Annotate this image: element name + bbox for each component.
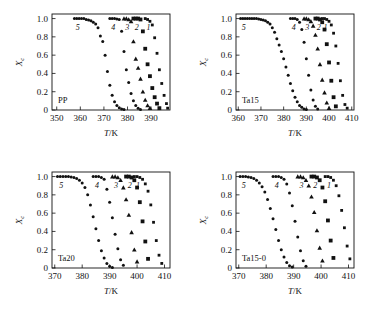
- data-point: [153, 95, 157, 99]
- data-point: [274, 228, 277, 231]
- data-point: [269, 207, 272, 210]
- x-tick-label: 370: [97, 113, 111, 123]
- curve-number-5: 5: [76, 23, 80, 32]
- data-point: [299, 249, 302, 252]
- data-point: [118, 18, 121, 21]
- data-point: [337, 62, 340, 65]
- data-point: [291, 204, 294, 207]
- data-point: [146, 62, 150, 66]
- data-point: [122, 264, 125, 267]
- data-point: [291, 266, 294, 269]
- panel-label: Ta15-0: [242, 253, 266, 263]
- panel-label: Ta20: [58, 253, 75, 263]
- data-point: [143, 47, 147, 51]
- data-point: [296, 18, 299, 21]
- data-point: [278, 44, 281, 47]
- data-point: [139, 18, 143, 22]
- data-point: [158, 254, 161, 257]
- data-point: [305, 108, 308, 111]
- y-tick-label: 0.4: [221, 226, 233, 236]
- curve-number-4: 4: [111, 23, 115, 32]
- curve-number-4: 4: [275, 181, 279, 190]
- y-tick-label: 1.0: [221, 14, 233, 24]
- data-point: [285, 182, 288, 185]
- data-point: [115, 104, 118, 107]
- data-point: [332, 32, 335, 35]
- y-tick-label: 0.8: [221, 190, 233, 200]
- data-point: [332, 95, 336, 99]
- data-point: [97, 26, 100, 29]
- data-point: [106, 70, 109, 73]
- data-point: [294, 220, 297, 223]
- data-point: [247, 176, 250, 179]
- data-point: [332, 179, 335, 182]
- data-point: [153, 36, 156, 39]
- data-point: [300, 28, 303, 31]
- y-tick-label: 0.8: [37, 32, 49, 42]
- x-tick-label: 360: [74, 113, 88, 123]
- data-point: [315, 46, 320, 50]
- data-point: [258, 181, 261, 184]
- y-tick-label: 1.0: [221, 172, 233, 182]
- data-point: [348, 257, 351, 260]
- data-point: [252, 177, 255, 180]
- data-point: [92, 215, 95, 218]
- x-tick-label: 400: [314, 271, 328, 281]
- curve-number-2: 2: [317, 23, 321, 32]
- data-point: [94, 227, 97, 230]
- data-point: [329, 176, 332, 179]
- y-axis-label: Xc: [198, 216, 209, 226]
- data-point: [325, 42, 329, 46]
- data-point: [346, 107, 349, 110]
- curve-number-1: 1: [136, 181, 140, 190]
- data-point: [294, 96, 297, 99]
- curve-number-4: 4: [292, 23, 296, 32]
- data-point: [150, 86, 154, 90]
- panel-pp: 00.20.40.60.81.0350360370380390T/KXcPP54…: [0, 0, 183, 158]
- data-point: [92, 175, 95, 178]
- data-point: [158, 68, 161, 71]
- data-point: [152, 221, 155, 224]
- data-point: [318, 62, 323, 66]
- data-point: [100, 249, 103, 252]
- data-point: [138, 77, 143, 81]
- data-point: [166, 107, 169, 110]
- data-point: [313, 33, 318, 37]
- series-5: [73, 17, 126, 111]
- data-point: [94, 23, 97, 26]
- data-point: [305, 57, 308, 60]
- y-tick-label: 1.0: [37, 172, 49, 182]
- data-point: [340, 209, 343, 212]
- data-point: [334, 45, 337, 48]
- x-tick-label: 370: [254, 113, 268, 123]
- data-point: [135, 259, 140, 263]
- data-point: [143, 98, 148, 102]
- x-axis-label: T/K: [288, 286, 303, 296]
- curve-number-3: 3: [113, 181, 118, 190]
- data-point: [338, 194, 341, 197]
- curve-number-1: 1: [147, 23, 151, 32]
- y-tick-label: 0.4: [221, 68, 233, 78]
- data-point: [141, 178, 144, 181]
- data-point: [291, 89, 294, 92]
- data-point: [119, 258, 122, 261]
- data-point: [160, 262, 163, 265]
- curve-number-3: 3: [304, 23, 309, 32]
- data-point: [141, 219, 145, 223]
- data-point: [160, 82, 163, 85]
- data-point: [156, 52, 159, 55]
- data-point: [327, 61, 331, 65]
- data-point: [329, 79, 333, 83]
- data-point: [283, 178, 286, 181]
- data-point: [103, 256, 106, 259]
- data-point: [318, 178, 322, 182]
- data-point: [146, 257, 150, 261]
- data-point: [330, 24, 333, 27]
- plot-pp: 00.20.40.60.81.0350360370380390T/KXcPP54…: [0, 0, 183, 158]
- data-point: [136, 175, 139, 178]
- x-tick-label: 390: [144, 113, 158, 123]
- plot-ta15-0: 00.20.40.60.81.0370380390400410T/KXcTa15…: [184, 158, 367, 316]
- y-tick-label: 0.6: [37, 50, 49, 60]
- data-point: [127, 81, 130, 84]
- data-point: [272, 175, 275, 178]
